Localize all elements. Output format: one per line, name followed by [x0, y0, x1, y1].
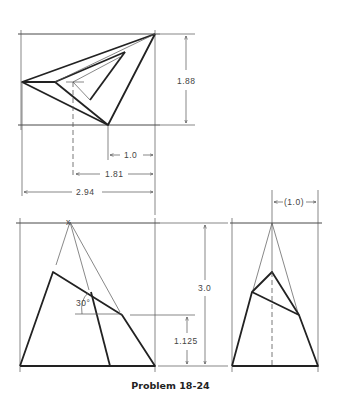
- top-view-outer-outline: [22, 34, 155, 125]
- technical-drawing: 1.88 1.0 1.81 2.94 x 30° 1.125: [0, 0, 341, 411]
- side-view-apex-line: [272, 223, 298, 313]
- dim-offset-2: 1.81: [105, 169, 124, 179]
- top-view-cut-upper: [22, 52, 125, 82]
- side-view-apex-line: [253, 223, 272, 290]
- dim-height: 3.0: [198, 283, 211, 293]
- dim-angle: 30°: [76, 298, 90, 308]
- top-view-projection-line: [73, 82, 90, 100]
- top-view: 1.88: [18, 30, 196, 215]
- figure-caption: Problem 18-24: [0, 380, 341, 391]
- side-view: (1.0): [230, 190, 322, 372]
- dim-overall-width: 2.94: [76, 187, 95, 197]
- front-view-cut-edge: [91, 292, 110, 366]
- dim-side-offset: (1.0): [284, 197, 304, 207]
- front-view: x 30° 1.125 3.0: [16, 217, 228, 372]
- side-view-outline: [232, 272, 318, 366]
- dim-offset-1: 1.0: [124, 150, 137, 160]
- front-view-outline: [20, 272, 155, 366]
- top-view-cut-lower: [55, 82, 108, 125]
- horizontal-dimensions: 1.0 1.81 2.94: [24, 150, 153, 197]
- dim-top-height: 1.88: [177, 76, 196, 86]
- front-view-apex-line: [70, 222, 89, 290]
- top-view-edge-line: [55, 34, 155, 82]
- dim-cut-height: 1.125: [174, 336, 198, 346]
- front-view-apex-line: [56, 222, 70, 265]
